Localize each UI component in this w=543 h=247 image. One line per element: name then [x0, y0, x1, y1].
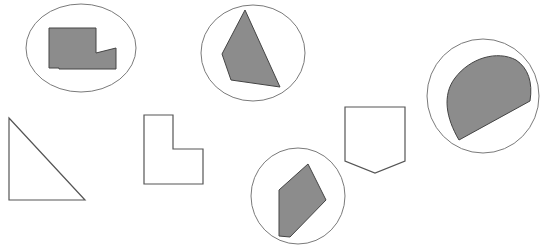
- circled-hexagon-shard: [251, 148, 345, 244]
- right-triangle-outline: [9, 118, 85, 200]
- notched-rectangle-shape: [49, 28, 116, 69]
- l-shape-outline: [144, 115, 203, 184]
- quadrilateral-shape: [222, 10, 280, 87]
- hexagon-shard-shape: [279, 164, 326, 237]
- pentagon-shield-outline: [345, 107, 405, 173]
- circled-quadrilateral: [201, 5, 305, 101]
- shapes-figure: [0, 0, 543, 247]
- circled-notched-rectangle: [26, 4, 136, 92]
- circled-circular-segment: [427, 39, 539, 153]
- circular-segment-shape: [447, 56, 531, 140]
